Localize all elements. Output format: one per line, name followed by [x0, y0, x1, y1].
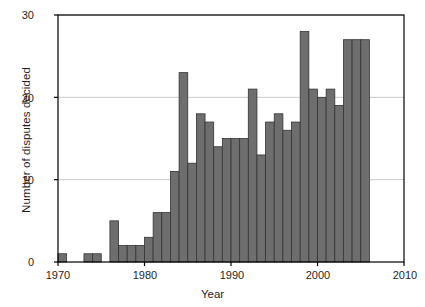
chart-figure: Number of disputes decided Year 30 20 10… [0, 0, 425, 307]
bar-1996 [283, 130, 292, 262]
bar-1988 [214, 147, 223, 262]
bars-group [58, 31, 369, 262]
bar-1983 [170, 171, 179, 262]
bar-2003 [343, 40, 352, 262]
bar-1979 [136, 246, 145, 262]
bar-1992 [248, 89, 257, 262]
bar-1985 [188, 163, 197, 262]
bar-1995 [274, 114, 283, 262]
bar-2000 [318, 97, 327, 262]
bar-1974 [93, 254, 102, 262]
bar-1999 [309, 89, 318, 262]
bar-2005 [361, 40, 370, 262]
bar-1989 [222, 139, 231, 263]
bar-1970 [58, 254, 67, 262]
bar-2004 [352, 40, 361, 262]
bar-1990 [231, 139, 240, 263]
bar-1978 [127, 246, 136, 262]
bar-2001 [326, 89, 335, 262]
bar-1977 [119, 246, 128, 262]
bar-1997 [292, 122, 301, 262]
bar-1982 [162, 213, 171, 262]
plot-area [0, 0, 425, 307]
bar-1986 [196, 114, 205, 262]
bar-1980 [145, 237, 154, 262]
bar-1976 [110, 221, 119, 262]
bar-2002 [335, 106, 344, 262]
bar-1994 [266, 122, 275, 262]
bar-1973 [84, 254, 93, 262]
bar-1984 [179, 73, 188, 262]
bar-1993 [257, 155, 266, 262]
bar-1998 [300, 31, 309, 262]
bar-1991 [240, 139, 249, 263]
bar-1987 [205, 122, 214, 262]
bar-1981 [153, 213, 162, 262]
